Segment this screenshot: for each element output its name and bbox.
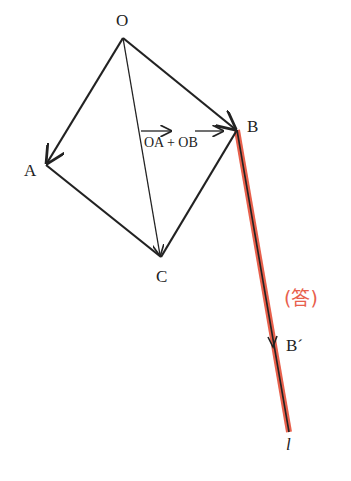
- label-o: O: [116, 12, 128, 29]
- label-b: B: [247, 118, 258, 135]
- label-line-l: l: [286, 436, 291, 453]
- segment-ac: [46, 165, 161, 257]
- vector-diagram: [0, 0, 351, 481]
- vector-sum-label: OA + OB: [144, 136, 198, 150]
- answer-label: (答): [284, 289, 318, 308]
- line-l: [237, 130, 289, 432]
- vector-sum-part1: OA: [144, 135, 163, 150]
- vector-sum-plus: +: [167, 135, 175, 150]
- label-a: A: [24, 162, 36, 179]
- label-b-prime: B´: [286, 337, 303, 354]
- vector-sum-part2: OB: [178, 135, 197, 150]
- vector-oa: [47, 38, 123, 163]
- label-c: C: [156, 268, 167, 285]
- vector-ob: [123, 38, 235, 129]
